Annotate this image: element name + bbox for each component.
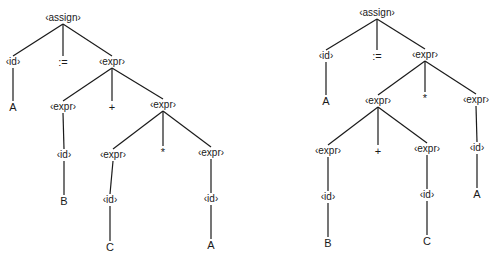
right-tree-edge [425, 61, 476, 94]
left-tree-node-nonterminal: ‹expr› [197, 148, 225, 158]
left-tree-node-terminal: B [59, 196, 68, 207]
tree-edges [0, 0, 491, 257]
left-tree-node-nonterminal: ‹id› [5, 57, 21, 67]
right-tree-edge [328, 107, 378, 145]
left-tree-edge [63, 24, 112, 56]
right-tree-node-nonterminal: ‹id› [419, 190, 435, 200]
right-tree-edge [378, 107, 427, 143]
right-tree-node-terminal: A [472, 189, 481, 200]
right-tree-edge [378, 61, 425, 95]
left-tree-node-nonterminal: ‹expr› [99, 150, 127, 160]
right-tree-node-nonterminal: ‹expr› [314, 146, 342, 156]
left-tree-node-nonterminal: ‹expr› [98, 57, 126, 67]
right-tree-node-terminal: A [321, 96, 330, 107]
parse-tree-diagram: ‹assign›‹id›:=‹expr›A‹expr›+‹expr›‹id›‹e… [0, 0, 491, 257]
left-tree-edge [163, 111, 211, 147]
right-tree-node-nonterminal: ‹expr› [411, 50, 439, 60]
right-tree-edge [326, 19, 377, 50]
right-tree-node-nonterminal: ‹id› [469, 143, 485, 153]
left-tree-edge [113, 111, 163, 149]
left-tree-node-nonterminal: ‹id› [203, 194, 219, 204]
right-tree-node-terminal: C [422, 236, 432, 247]
right-tree-node-nonterminal: ‹assign› [358, 8, 396, 18]
right-tree-node-nonterminal: ‹id› [318, 51, 334, 61]
left-tree-node-nonterminal: ‹id› [102, 195, 118, 205]
left-tree-edge [63, 113, 64, 149]
right-tree-node-nonterminal: ‹expr› [462, 95, 490, 105]
left-tree-edge [13, 24, 63, 56]
left-tree-edge [112, 68, 163, 99]
left-tree-node-terminal: A [8, 102, 17, 113]
right-tree-node-nonterminal: ‹expr› [364, 96, 392, 106]
right-tree-node-terminal: := [371, 51, 382, 62]
left-tree-node-terminal: + [108, 102, 116, 113]
left-tree-node-terminal: C [105, 242, 115, 253]
right-tree-edge [377, 19, 425, 49]
left-tree-node-terminal: * [160, 147, 166, 158]
left-tree-node-nonterminal: ‹id› [56, 150, 72, 160]
left-tree-node-nonterminal: ‹expr› [49, 102, 77, 112]
left-tree-node-terminal: := [57, 57, 68, 68]
left-tree-node-nonterminal: ‹expr› [149, 100, 177, 110]
right-tree-node-terminal: B [323, 238, 332, 249]
right-tree-edge [476, 106, 477, 142]
right-tree-node-nonterminal: ‹id› [320, 192, 336, 202]
left-tree-node-nonterminal: ‹assign› [44, 13, 82, 23]
left-tree-edge [110, 161, 113, 194]
right-tree-node-nonterminal: ‹expr› [413, 144, 441, 154]
left-tree-node-terminal: A [206, 240, 215, 251]
left-tree-edge [63, 68, 112, 101]
right-tree-node-terminal: * [422, 93, 428, 104]
right-tree-node-terminal: + [374, 146, 382, 157]
